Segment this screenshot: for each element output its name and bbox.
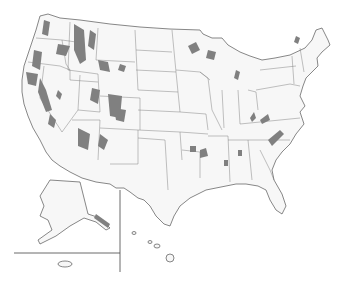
- alaska-outline: [38, 180, 110, 244]
- hawaii-islands: [132, 232, 174, 263]
- puerto-rico: [58, 261, 72, 267]
- us-map: [0, 0, 352, 285]
